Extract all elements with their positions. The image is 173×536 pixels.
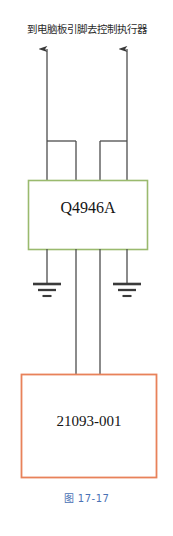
top-wiring-group bbox=[47, 140, 127, 180]
module-block-21093-001 bbox=[22, 375, 157, 478]
ic-block-q4946a bbox=[29, 181, 148, 250]
ground-symbol-left bbox=[33, 284, 61, 296]
ground-symbol-right bbox=[113, 284, 141, 296]
figure-container: 到电脑板引脚去控制执行器 Q4946A 21093-001 图 17-17 bbox=[0, 0, 173, 536]
circuit-diagram-canvas bbox=[0, 0, 173, 536]
bottom-wiring-group bbox=[47, 249, 127, 374]
